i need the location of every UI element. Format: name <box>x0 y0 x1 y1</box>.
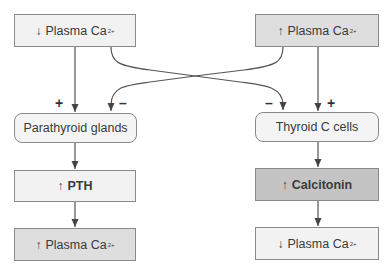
up-arrow-icon: ↑ <box>282 178 288 192</box>
hormone-label: PTH <box>68 179 93 193</box>
calcitonin-box: ↑ Calcitonin <box>255 168 379 201</box>
parathyroid-glands-box: Parathyroid glands <box>14 113 137 143</box>
lowered-plasma-calcium-box: ↓ Plasma Ca2+ <box>255 227 379 260</box>
charge-superscript: 2+ <box>350 241 357 247</box>
arrow-left-to-thyroid-inhibit <box>111 47 283 110</box>
stimulate-sign-left: + <box>55 95 63 111</box>
up-arrow-icon: ↑ <box>278 24 284 38</box>
inhibit-sign-right: – <box>265 95 273 111</box>
arrow-right-to-parathyroid-inhibit <box>111 47 283 111</box>
raised-plasma-calcium-box: ↑ Plasma Ca2+ <box>14 228 136 261</box>
down-arrow-icon: ↓ <box>278 237 284 251</box>
gland-label: Parathyroid glands <box>23 121 127 135</box>
result-label: Plasma Ca <box>288 237 349 251</box>
stimulus-label: Plasma Ca <box>288 24 349 38</box>
stimulus-label: Plasma Ca <box>46 24 107 38</box>
high-plasma-calcium-box: ↑ Plasma Ca2+ <box>255 14 379 47</box>
pth-box: ↑ PTH <box>14 170 136 202</box>
thyroid-c-cells-box: Thyroid C cells <box>255 112 379 142</box>
hormone-label: Calcitonin <box>292 178 352 192</box>
up-arrow-icon: ↑ <box>58 179 64 193</box>
charge-superscript: 2+ <box>108 242 115 248</box>
down-arrow-icon: ↓ <box>36 24 42 38</box>
stimulate-sign-right: + <box>327 95 335 111</box>
up-arrow-icon: ↑ <box>36 238 42 252</box>
charge-superscript: 2+ <box>350 28 357 34</box>
result-label: Plasma Ca <box>46 238 107 252</box>
charge-superscript: 2+ <box>108 28 115 34</box>
gland-label: Thyroid C cells <box>276 120 359 134</box>
inhibit-sign-left: – <box>119 95 127 111</box>
low-plasma-calcium-box: ↓ Plasma Ca2+ <box>14 14 136 47</box>
